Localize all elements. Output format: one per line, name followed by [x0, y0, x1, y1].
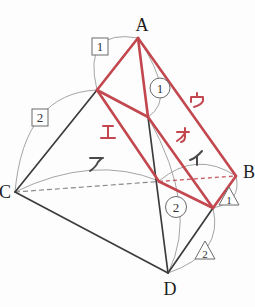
- vertex-label-b: B: [243, 162, 255, 182]
- diagram-canvas: 1 2 1 2 1 2 A B C D ア イ ウ エ: [0, 0, 255, 307]
- square-badge-2-number: 2: [37, 110, 44, 125]
- label-a-kana: ア: [90, 158, 103, 171]
- vertex-labels: A B C D: [0, 15, 255, 299]
- label-i-kana: イ: [190, 151, 202, 165]
- square-badge-1-number: 1: [97, 39, 104, 54]
- label-u-kana: ウ: [191, 93, 203, 107]
- edge-cd: [15, 192, 168, 273]
- ratio-arcs: [15, 37, 237, 273]
- arc-a-to-m: [138, 38, 161, 117]
- label-o-kana: オ: [177, 128, 189, 142]
- circle-badge-1-number: 1: [157, 81, 164, 96]
- vertex-label-a: A: [136, 15, 149, 35]
- triangle-badge-1-number: 1: [226, 194, 232, 206]
- edge-sb-hidden-highlight: [159, 176, 236, 182]
- vertex-label-d: D: [164, 279, 177, 299]
- triangle-badge-2-number: 2: [202, 248, 208, 260]
- circle-badge-2-number: 2: [173, 200, 180, 215]
- tetrahedron-diagram: 1 2 1 2 1 2 A B C D ア イ ウ エ: [0, 0, 255, 307]
- highlight-edges: [97, 38, 236, 208]
- label-e-kana: エ: [101, 126, 115, 138]
- vertex-label-c: C: [0, 182, 11, 202]
- arc-c-to-s: [15, 170, 159, 192]
